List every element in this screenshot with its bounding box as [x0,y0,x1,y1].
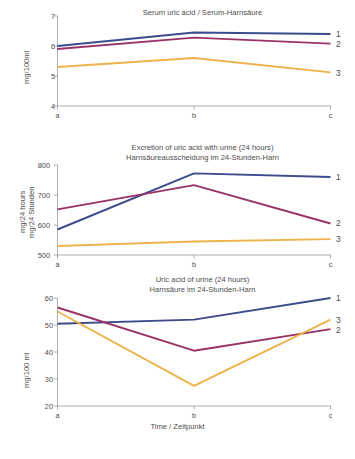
chart1-xtick-a: a [50,111,66,120]
chart1-series-3-line [58,58,331,72]
chart2-xtick-b: b [186,260,202,269]
chart3-x-axis-title: Time / Zeitpunkt [0,422,355,431]
chart3-series-2-line [58,308,331,351]
chart1-series-label-2: 2 [336,39,341,49]
chart1-series-label-1: 1 [336,29,341,39]
chart3-series-label-2: 2 [336,325,341,335]
chart1-xtick-b: b [186,111,202,120]
chart3-xtick-b: b [186,411,202,420]
chart2-plot [0,140,355,280]
chart1-series-2-line [58,38,331,49]
chart3-xtick-c: c [323,411,339,420]
chart2-series-3-line [58,239,331,246]
chart2-series-2-line [58,185,331,223]
chart2-series-label-2: 2 [336,218,341,228]
chart2-xtick-c: c [323,260,339,269]
chart-panel-excretion-uric-acid: Excretion of uric acid with urine (24 ho… [0,140,355,280]
chart3-xtick-a: a [50,411,66,420]
chart2-xtick-a: a [50,260,66,269]
chart3-series-label-3: 3 [336,315,341,325]
chart1-series-1-line [58,33,331,47]
chart2-series-label-3: 3 [336,234,341,244]
chart-panel-uric-acid-urine: Uric acid of urine (24 hours) Harnsäure … [0,272,355,459]
figure-container: Serum uric acid / Serum-Harnsäure mg/100… [0,0,355,459]
chart2-series-label-1: 1 [336,172,341,182]
chart3-series-label-1: 1 [336,293,341,303]
chart1-xtick-c: c [323,111,339,120]
chart-panel-serum-uric-acid: Serum uric acid / Serum-Harnsäure mg/100… [0,0,355,140]
chart1-series-label-3: 3 [336,68,341,78]
